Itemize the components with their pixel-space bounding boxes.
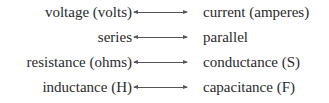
duality-row: inductance (H) capacitance (F) [0,77,329,97]
duality-row: voltage (volts) current (amperes) [0,2,329,22]
right-term: parallel [203,27,248,47]
left-term: series [98,27,132,47]
duality-row: series parallel [0,27,329,47]
left-term: voltage (volts) [45,2,132,22]
double-arrow-icon [134,12,187,13]
double-arrow-icon [134,37,187,38]
duality-row: resistance (ohms) conductance (S) [0,52,329,72]
right-term: conductance (S) [203,52,300,72]
right-term: current (amperes) [203,2,309,22]
right-term: capacitance (F) [203,77,295,97]
double-arrow-icon [134,62,187,63]
double-arrow-icon [134,87,187,88]
left-term: resistance (ohms) [27,52,132,72]
left-term: inductance (H) [42,77,132,97]
